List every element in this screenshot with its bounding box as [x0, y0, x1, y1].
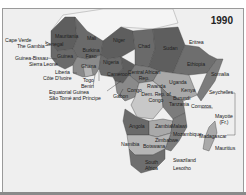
label-chad: Chad	[138, 43, 150, 49]
label-the-gambia: The Gambia	[17, 43, 45, 49]
label-dem-rep-congo: Dem. Rep. of Congo	[141, 91, 171, 103]
label-malawi: Malawi	[171, 123, 187, 129]
label-botswana: Botswana	[143, 143, 165, 149]
label-mauritius: Mauritius	[215, 145, 235, 151]
label-central-african-rep: Central African Rep.	[127, 69, 161, 81]
label-congo: Congo	[127, 87, 142, 93]
label-somalia: Somalia	[211, 71, 229, 77]
label-tanzania: Tanzania	[169, 101, 189, 107]
label-comoros: Comoros	[191, 103, 211, 109]
label-eritrea: Eritrea	[189, 39, 204, 45]
label-angola: Angola	[129, 123, 145, 129]
label-mauritania: Mauritania	[55, 33, 78, 39]
label-uganda: Uganda	[169, 79, 187, 85]
label-senegal: Senegal	[45, 41, 63, 47]
africa-map-frame: 1990 Cape Verde The Gambia Guinea-Bissau…	[2, 8, 244, 194]
label-mali: Mali	[87, 35, 96, 41]
label-south-africa: South Africa	[145, 159, 163, 171]
label-sierra-leone: Sierra Leone	[29, 61, 58, 67]
label-kenya: Kenya	[181, 87, 195, 93]
label-madagascar: Madagascar	[199, 133, 227, 139]
label-cote-divoire: Côte D'Ivoire	[43, 75, 72, 81]
label-nigeria: Nigeria	[103, 59, 119, 65]
bottom-border	[0, 192, 246, 195]
label-lesotho: Lesotho	[173, 165, 191, 171]
label-rwanda: Rwanda	[147, 83, 165, 89]
label-seychelles: Seychelles	[209, 89, 233, 95]
label-zambia: Zambia	[155, 123, 172, 129]
label-niger: Niger	[113, 37, 125, 43]
label-sao-tome: São Tomé and Príncipe	[49, 95, 101, 101]
label-ethiopia: Ethiopia	[187, 61, 205, 67]
label-mayotte: Mayotte (Fr.)	[215, 113, 233, 125]
label-ghana: Ghana	[81, 63, 96, 69]
label-gabon: Gabon	[113, 93, 128, 99]
label-swaziland: Swaziland	[173, 157, 196, 163]
label-guinea: Guinea	[57, 53, 73, 59]
label-sudan: Sudan	[163, 45, 178, 51]
label-namibia: Namibia	[121, 141, 139, 147]
label-burkina-faso: Burkina Faso	[81, 47, 101, 59]
map-year: 1990	[211, 15, 233, 26]
